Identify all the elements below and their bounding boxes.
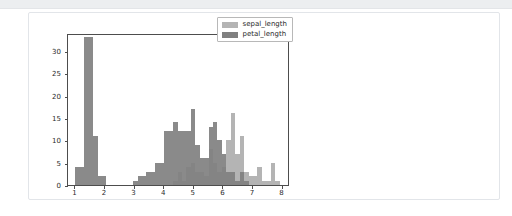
x-tick-mark: [193, 186, 194, 189]
x-tick-label: 5: [191, 190, 195, 197]
chart-legend: sepal_lengthpetal_length: [217, 17, 293, 42]
x-tick-mark: [134, 186, 135, 189]
legend-swatch-icon: [222, 22, 238, 28]
x-tick-mark: [74, 186, 75, 189]
x-tick-label: 2: [102, 190, 106, 197]
y-tick-label: 5: [57, 160, 61, 167]
histogram-bars: [68, 35, 288, 185]
matplotlib-figure: 051015202530 12345678 sepal_lengthpetal_…: [29, 13, 297, 199]
histogram-bar: [275, 181, 279, 185]
notebook-toolbar-strip: [0, 0, 512, 9]
y-axis-tick-labels: 051015202530: [29, 34, 65, 186]
x-tick-label: 7: [250, 190, 254, 197]
histogram-bar: [244, 181, 248, 185]
x-tick-label: 3: [131, 190, 135, 197]
x-tick-label: 6: [220, 190, 224, 197]
legend-label: petal_length: [243, 31, 287, 38]
legend-item: sepal_length: [222, 21, 287, 28]
y-tick-label: 20: [52, 93, 61, 100]
y-tick-label: 30: [52, 48, 61, 55]
x-tick-mark: [222, 186, 223, 189]
legend-label: sepal_length: [243, 21, 287, 28]
x-tick-mark: [282, 186, 283, 189]
x-tick-mark: [163, 186, 164, 189]
x-axis-tick-marks: [67, 186, 289, 190]
y-tick-label: 0: [57, 183, 61, 190]
plot-axes: [67, 34, 289, 186]
x-tick-mark: [104, 186, 105, 189]
x-tick-label: 8: [279, 190, 283, 197]
x-tick-label: 1: [72, 190, 76, 197]
x-tick-mark: [252, 186, 253, 189]
y-tick-label: 25: [52, 71, 61, 78]
notebook-output-cell: 051015202530 12345678 sepal_lengthpetal_…: [28, 12, 500, 200]
y-tick-label: 15: [52, 115, 61, 122]
page-root: 051015202530 12345678 sepal_lengthpetal_…: [0, 0, 512, 216]
legend-swatch-icon: [222, 32, 238, 38]
histogram-bar: [102, 176, 106, 185]
legend-item: petal_length: [222, 31, 287, 38]
y-tick-label: 10: [52, 138, 61, 145]
x-tick-label: 4: [161, 190, 165, 197]
